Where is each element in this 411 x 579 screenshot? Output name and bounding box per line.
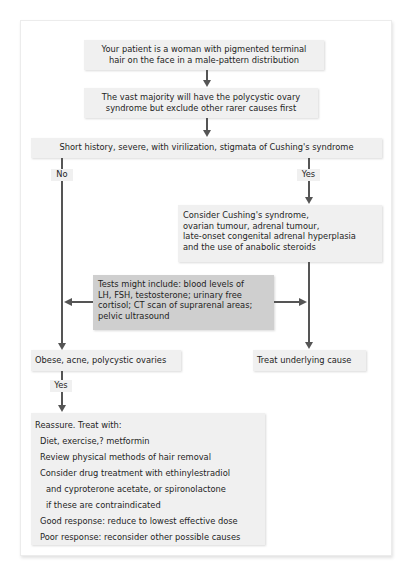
reassure-box: Reassure. Treat with: Diet, exercise,? m… [31, 413, 265, 545]
decision-box: Short history, severe, with virilization… [31, 138, 382, 158]
consider-line-3: late-onset congenital adrenal hyperplasi… [183, 231, 382, 242]
tests-line-2: LH, FSH, testosterone; urinary free [98, 290, 274, 301]
connector-consider-treat [308, 262, 310, 343]
start-box: Your patient is a woman with pigmented t… [84, 40, 324, 70]
connector-no-branch [61, 158, 63, 344]
start-line-1: Your patient is a woman with pigmented t… [84, 44, 324, 55]
arrow-left-icon [64, 298, 72, 306]
arrow-down-icon [58, 343, 66, 350]
reassure-item: Good response: reduce to lowest effectiv… [35, 513, 265, 529]
consider-line-4: and the use of anabolic steroids [183, 242, 382, 253]
treat-cause-text: Treat underlying cause [257, 355, 366, 366]
arrow-down-icon [203, 130, 211, 137]
connector-tests-left [70, 301, 93, 303]
arrow-down-icon [305, 342, 313, 349]
arrow-down-icon [58, 405, 66, 412]
start-line-2: hair on the face in a male-pattern distr… [84, 55, 324, 66]
reassure-item: Review physical methods of hair removal [35, 449, 265, 465]
reassure-item: if these are contraindicated [35, 497, 265, 513]
reassure-item: and cyproterone acetate, or spironolacto… [35, 481, 265, 497]
connector-note-decision [206, 118, 208, 130]
tests-line-4: pelvic ultrasound [98, 311, 274, 322]
branch-yes-label: Yes [297, 169, 320, 181]
consider-line-2: ovarian tumour, adrenal tumour, [183, 221, 382, 232]
reassure-title: Reassure. Treat with: [35, 417, 265, 433]
arrow-down-icon [203, 80, 211, 87]
tests-line-1: Tests might include: blood levels of [98, 279, 274, 290]
reassure-item: Diet, exercise,? metformin [35, 433, 265, 449]
consider-line-1: Consider Cushing's syndrome, [183, 210, 382, 221]
arrow-right-icon [299, 298, 307, 306]
note-line-1: The vast majority will have the polycyst… [84, 92, 318, 103]
note-box: The vast majority will have the polycyst… [84, 88, 318, 118]
decision-text: Short history, severe, with virilization… [31, 142, 382, 153]
arrow-down-icon [305, 197, 313, 204]
reassure-item: Poor response: reconsider other possible… [35, 529, 265, 545]
consider-box: Consider Cushing's syndrome, ovarian tum… [178, 205, 382, 262]
treat-cause-box: Treat underlying cause [253, 350, 366, 371]
tests-box: Tests might include: blood levels of LH,… [93, 275, 274, 330]
branch-no-label: No [51, 169, 73, 181]
obese-text: Obese, acne, polycystic ovaries [35, 355, 181, 366]
obese-box: Obese, acne, polycystic ovaries [31, 350, 181, 371]
branch-yes2-label: Yes [50, 380, 72, 392]
tests-line-3: cortisol; CT scan of suprarenal areas; [98, 300, 274, 311]
reassure-item: Consider drug treatment with ethinylestr… [35, 465, 265, 481]
note-line-2: syndrome but exclude other rarer causes … [84, 103, 318, 114]
connector-tests-right [274, 301, 300, 303]
